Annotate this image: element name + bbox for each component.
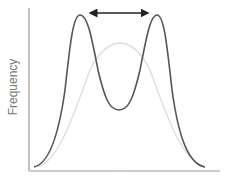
y-axis-label: Frequency (6, 52, 20, 122)
x-axis-label: · · (100, 172, 140, 178)
chart-canvas (0, 0, 234, 184)
